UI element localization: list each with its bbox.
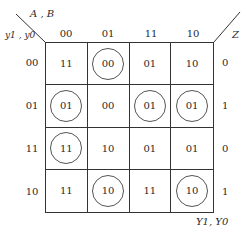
cell-value: 10 — [186, 58, 199, 69]
cell-value: 11 — [50, 132, 82, 164]
cell-value: 11 — [144, 185, 157, 196]
cell-value: 11 — [60, 185, 73, 196]
output-value: 0 — [222, 57, 228, 68]
cell-value: 01 — [176, 90, 208, 122]
cell-value: 10 — [92, 175, 124, 207]
cell-value: 01 — [186, 143, 199, 154]
output-value: 1 — [222, 186, 228, 197]
cell-value: 01 — [50, 90, 82, 122]
map-cell: 00 — [88, 85, 130, 127]
karnaugh-map-grid: 11 00 01 10 01 00 01 01 11 10 01 01 11 1… — [45, 42, 214, 213]
cell-value: 01 — [144, 58, 157, 69]
cell-value: 10 — [102, 143, 115, 154]
output-value: 1 — [222, 100, 228, 111]
input-variables-label: A , B — [30, 8, 54, 19]
map-cell: 01 — [171, 128, 213, 170]
column-header: 10 — [172, 28, 214, 39]
column-header: 00 — [45, 28, 87, 39]
column-header: 11 — [130, 28, 172, 39]
map-cell-circled: 00 — [88, 43, 130, 85]
column-header: 01 — [87, 28, 129, 39]
next-state-label: Y1, Y0 — [196, 216, 228, 227]
map-cell-circled: 01 — [171, 85, 213, 127]
map-cell: 10 — [171, 43, 213, 85]
map-cell: 11 — [130, 170, 172, 212]
cell-value: 10 — [176, 175, 208, 207]
output-value: 0 — [222, 143, 228, 154]
cell-value: 01 — [134, 90, 166, 122]
map-cell-circled: 01 — [46, 85, 88, 127]
map-cell: 01 — [130, 43, 172, 85]
map-cell-circled: 10 — [171, 170, 213, 212]
map-cell: 11 — [46, 43, 88, 85]
map-cell-circled: 10 — [88, 170, 130, 212]
map-cell: 01 — [130, 128, 172, 170]
cell-value: 00 — [102, 100, 115, 111]
state-variables-label: y1 , y0 — [5, 30, 35, 40]
map-cell-circled: 11 — [46, 128, 88, 170]
row-header: 01 — [22, 100, 42, 111]
row-header: 11 — [22, 143, 42, 154]
cell-value: 00 — [92, 48, 124, 80]
map-cell: 11 — [46, 170, 88, 212]
output-label: Z — [232, 29, 239, 40]
map-cell-circled: 01 — [130, 85, 172, 127]
cell-value: 01 — [144, 143, 157, 154]
map-cell: 10 — [88, 128, 130, 170]
row-header: 00 — [22, 57, 42, 68]
row-header: 10 — [22, 186, 42, 197]
cell-value: 11 — [60, 58, 73, 69]
